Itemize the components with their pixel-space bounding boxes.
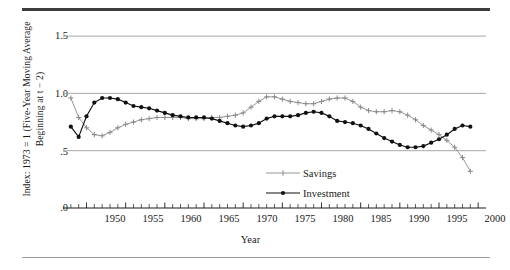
gridlines: [63, 36, 486, 151]
series-investment: [69, 96, 473, 149]
legend-label-savings: Savings: [303, 168, 336, 179]
series-savings: [68, 94, 473, 174]
legend-marker-savings: [266, 170, 300, 176]
x-axis: [63, 203, 486, 209]
legend-marker-investment: [266, 191, 300, 195]
legend-label-investment: Investment: [303, 188, 350, 199]
